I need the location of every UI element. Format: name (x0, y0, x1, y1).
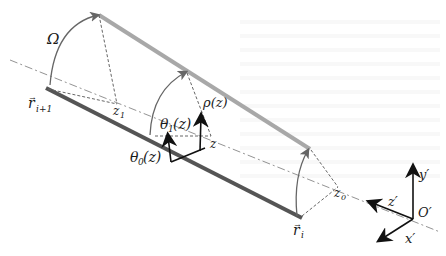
svg-text:z: z (112, 104, 120, 118)
svg-text:z: z (333, 186, 341, 200)
theta1-vector (200, 116, 201, 151)
svg-text:0: 0 (341, 193, 346, 202)
svg-text:i+1: i+1 (36, 104, 52, 114)
dashed-radius-z0-bottom (302, 187, 338, 216)
central-axis-line (10, 60, 440, 232)
theta1-label: θ 1 (z) (160, 116, 191, 134)
z-label: z (209, 137, 217, 151)
z-axis-label: z′ (387, 194, 398, 209)
svg-text:→: → (28, 92, 37, 102)
svg-text:(z): (z) (173, 116, 191, 132)
lower-edge-line (46, 88, 302, 218)
theta0-label: θ 0 (z) (130, 149, 161, 167)
origin-label: O′ (418, 205, 432, 220)
r-next-label: r i+1 → (28, 92, 52, 114)
svg-text:→: → (293, 219, 302, 229)
omega-arc (50, 15, 98, 85)
svg-text:(z): (z) (143, 149, 161, 165)
svg-text:i: i (301, 230, 304, 240)
omega-label: Ω (46, 30, 59, 48)
rho-label: ρ(z) (202, 95, 228, 110)
dashed-radius-z1-top (99, 15, 117, 104)
dashed-radius-z0-top (311, 150, 338, 187)
r-i-label: r i → (293, 219, 304, 240)
end-arc (296, 150, 308, 216)
z1-label: z 1 (112, 104, 125, 120)
cylinder-segment-diagram: Ω r i+1 → z 1 ρ(z) θ 1 (z) z θ 0 (z) r i… (0, 0, 446, 256)
x-axis-label: x′ (405, 231, 415, 246)
svg-text:1: 1 (120, 111, 125, 120)
y-axis-label: y′ (418, 167, 429, 182)
z0-label: z 0 (333, 186, 346, 202)
